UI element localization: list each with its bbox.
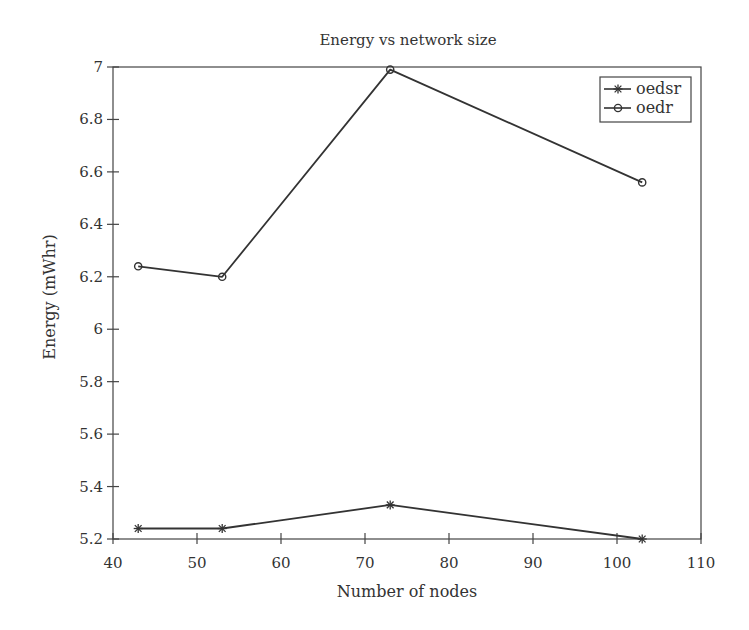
x-tick-label: 80	[439, 554, 458, 572]
star-marker-icon	[218, 524, 227, 533]
y-tick-label: 6.6	[79, 163, 103, 181]
y-tick-label: 5.6	[79, 425, 103, 443]
y-tick-label: 5.8	[79, 373, 103, 391]
series-oedr	[135, 66, 646, 280]
y-tick-label: 7	[93, 58, 103, 76]
legend-label-oedr: oedr	[636, 98, 673, 117]
star-marker-icon	[638, 535, 647, 544]
x-tick-label: 50	[187, 554, 206, 572]
line-chart: Energy vs network size 40506070809010011…	[0, 0, 749, 630]
circle-marker-icon	[639, 179, 646, 186]
legend: oedsr oedr	[600, 77, 691, 122]
y-tick-label: 5.2	[79, 530, 103, 548]
x-tick-label: 110	[687, 554, 716, 572]
legend-label-oedsr: oedsr	[636, 79, 682, 98]
star-marker-icon	[386, 500, 395, 509]
x-tick-label: 100	[603, 554, 632, 572]
y-tick-label: 6.2	[79, 268, 103, 286]
y-axis-label: Energy (mWhr)	[40, 234, 59, 360]
plot-area-frame	[113, 67, 701, 539]
series-oedsr	[134, 500, 647, 543]
y-tick-label: 6.8	[79, 110, 103, 128]
chart-title: Energy vs network size	[319, 31, 496, 49]
x-axis-label: Number of nodes	[337, 582, 477, 601]
x-tick-label: 70	[355, 554, 374, 572]
y-tick-label: 5.4	[79, 478, 103, 496]
y-tick-label: 6.4	[79, 215, 103, 233]
star-marker-icon	[614, 85, 623, 94]
series-layer	[134, 66, 647, 543]
x-tick-label: 60	[271, 554, 290, 572]
star-marker-icon	[134, 524, 143, 533]
y-tick-label: 6	[93, 320, 103, 338]
x-tick-label: 90	[523, 554, 542, 572]
x-tick-label: 40	[103, 554, 122, 572]
